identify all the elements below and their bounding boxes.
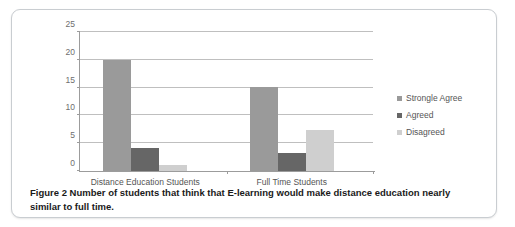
y-tick-label: 15 xyxy=(66,75,75,84)
y-tick-mark xyxy=(77,87,80,88)
y-tick-label: 20 xyxy=(66,48,75,57)
x-tick-mark xyxy=(227,171,228,174)
gridline xyxy=(80,31,373,32)
y-tick-mark xyxy=(77,31,80,32)
legend-label: Disagreed xyxy=(406,128,445,137)
bar xyxy=(131,148,159,171)
legend-label: Strongle Agree xyxy=(406,94,462,103)
bar xyxy=(103,60,131,171)
y-tick-mark xyxy=(77,59,80,60)
caption-body-text: Number of students that think that E-lea… xyxy=(30,187,450,212)
figure-caption: Figure 2 Number of students that think t… xyxy=(30,186,480,213)
legend-item[interactable]: Disagreed xyxy=(397,127,492,137)
bar xyxy=(306,130,334,171)
legend-swatch-icon xyxy=(397,96,402,101)
x-tick-mark xyxy=(373,171,374,174)
bar xyxy=(250,87,278,172)
y-tick-label: 5 xyxy=(70,131,75,140)
figure-card: 0510152025 Distance Education StudentsFu… xyxy=(11,9,497,218)
y-tick-mark xyxy=(77,170,80,171)
y-tick-mark xyxy=(77,142,80,143)
y-tick-mark xyxy=(77,114,80,115)
legend-label: Agreed xyxy=(406,111,433,120)
y-tick-label: 0 xyxy=(70,159,75,168)
y-tick-label: 10 xyxy=(66,103,75,112)
caption-figure-number: Figure 2 xyxy=(30,187,67,198)
bar xyxy=(159,165,187,171)
chart-legend: Strongle AgreeAgreedDisagreed xyxy=(397,93,492,144)
legend-item[interactable]: Strongle Agree xyxy=(397,93,492,103)
plot-area: 0510152025 Distance Education StudentsFu… xyxy=(80,32,373,171)
legend-swatch-icon xyxy=(397,130,402,135)
legend-item[interactable]: Agreed xyxy=(397,110,492,120)
y-tick-label: 25 xyxy=(66,20,75,29)
bar xyxy=(278,153,306,171)
legend-swatch-icon xyxy=(397,113,402,118)
y-axis-line xyxy=(79,32,80,171)
